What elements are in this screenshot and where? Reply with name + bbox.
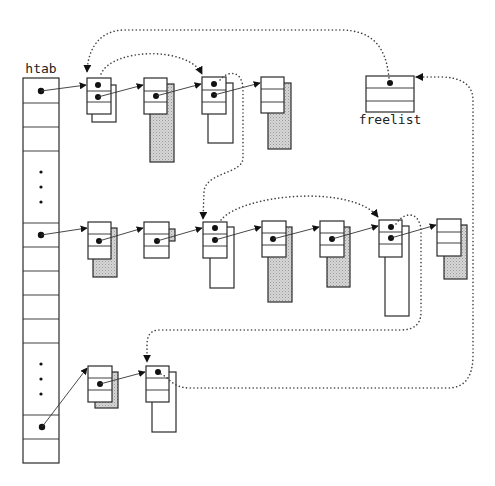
dotted-arrow-icon bbox=[221, 196, 378, 220]
freelist-pointer-dot bbox=[387, 80, 393, 86]
chain-row-2 bbox=[88, 219, 467, 316]
freelist-label: freelist bbox=[359, 112, 422, 127]
list-node bbox=[261, 77, 291, 149]
hash-table-freelist-diagram: htab bbox=[0, 0, 495, 486]
htab-array bbox=[23, 78, 59, 463]
dotted-arrow-icon bbox=[101, 54, 202, 74]
htab: htab bbox=[23, 61, 59, 463]
chain-row-1 bbox=[87, 77, 291, 162]
list-node bbox=[437, 219, 467, 279]
htab-label: htab bbox=[25, 61, 56, 76]
list-node bbox=[144, 78, 174, 162]
list-node bbox=[88, 366, 118, 408]
list-node bbox=[87, 78, 116, 122]
freelist-head: freelist bbox=[359, 76, 422, 127]
list-node bbox=[320, 221, 350, 287]
list-node bbox=[202, 77, 233, 143]
list-node bbox=[88, 222, 117, 277]
list-node bbox=[146, 366, 176, 432]
dotted-arrow-icon bbox=[87, 30, 389, 78]
list-node bbox=[262, 221, 292, 302]
list-node bbox=[203, 222, 234, 288]
